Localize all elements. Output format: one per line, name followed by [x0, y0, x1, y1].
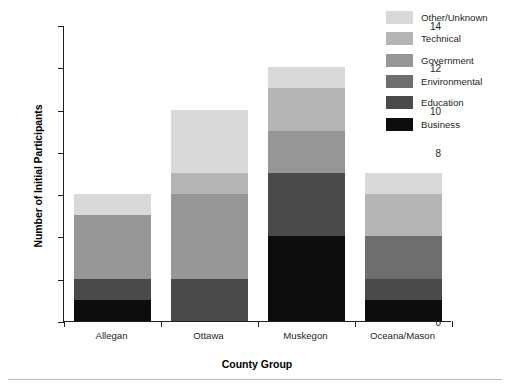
legend-color-swatch [386, 118, 413, 131]
bar-segment[interactable] [171, 194, 249, 279]
legend-item[interactable]: Other/Unknown [386, 7, 510, 28]
bar-segment[interactable] [365, 236, 443, 278]
bar-segment[interactable] [74, 300, 152, 321]
x-axis-tick [64, 321, 65, 327]
bar-segment[interactable] [268, 236, 346, 321]
legend-item[interactable]: Technical [386, 28, 510, 49]
legend-color-swatch [386, 96, 413, 109]
bar-segment[interactable] [171, 173, 249, 194]
bar-segment[interactable] [365, 194, 443, 236]
bar-segment[interactable] [171, 110, 249, 173]
legend-color-swatch [386, 54, 413, 67]
x-axis-tick [355, 321, 356, 327]
bar-segment[interactable] [365, 173, 443, 194]
legend-item[interactable]: Environmental [386, 71, 510, 92]
chart-legend: Other/UnknownTechnicalGovernmentEnvironm… [386, 7, 510, 135]
footer-divider [8, 379, 502, 380]
x-axis-label: Allegan [63, 330, 160, 341]
bar-group[interactable] [171, 110, 249, 321]
bar-segment[interactable] [74, 194, 152, 215]
x-axis-tick [258, 321, 259, 327]
legend-item-label: Government [421, 55, 474, 66]
bar-segment[interactable] [268, 173, 346, 236]
y-axis-title: Number of Initial Participants [32, 66, 44, 286]
legend-item-label: Technical [421, 33, 461, 44]
legend-item[interactable]: Government [386, 50, 510, 71]
legend-color-swatch [386, 75, 413, 88]
x-axis-label: Ottawa [160, 330, 257, 341]
legend-item-label: Other/Unknown [421, 12, 488, 23]
bar-segment[interactable] [74, 279, 152, 300]
bar-segment[interactable] [365, 279, 443, 300]
bar-segment[interactable] [171, 279, 249, 321]
stacked-bar-chart: Number of Initial Participants 024681012… [0, 0, 510, 387]
legend-item-label: Environmental [421, 76, 482, 87]
bar-segment[interactable] [268, 67, 346, 88]
bar-segment[interactable] [365, 300, 443, 321]
bar-segment[interactable] [74, 215, 152, 278]
x-axis-title: County Group [63, 358, 451, 370]
x-axis-tick [161, 321, 162, 327]
legend-item-label: Education [421, 97, 464, 108]
bar-group[interactable] [365, 173, 443, 321]
legend-color-swatch [386, 11, 413, 24]
x-axis-label: Oceana/Mason [354, 330, 451, 341]
legend-item-label: Business [421, 119, 460, 130]
bar-segment[interactable] [268, 131, 346, 173]
legend-color-swatch [386, 32, 413, 45]
legend-item[interactable]: Business [386, 113, 510, 134]
legend-item[interactable]: Education [386, 92, 510, 113]
bar-group[interactable] [268, 67, 346, 321]
bar-segment[interactable] [268, 88, 346, 130]
x-axis-tick [452, 321, 453, 327]
x-axis-label: Muskegon [257, 330, 354, 341]
bar-group[interactable] [74, 194, 152, 321]
